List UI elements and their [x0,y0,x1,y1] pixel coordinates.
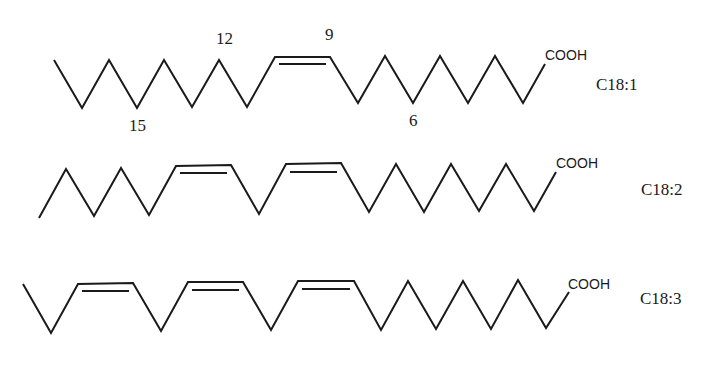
position-label-12: 12 [216,29,233,48]
carboxyl-group: COOH [545,47,587,63]
fatty-acid-diagram: 12 9 15 6 COOH C18:1 COOH C18:2 COOH C18… [0,0,719,379]
position-label-9: 9 [325,25,334,44]
position-label-15: 15 [129,116,146,135]
molecule-c18-3: COOH C18:3 [23,276,682,333]
molecule-c18-2: COOH C18:2 [39,155,683,218]
carboxyl-group: COOH [556,155,598,171]
molecule-label: C18:2 [641,180,683,199]
molecule-c18-1: 12 9 15 6 COOH C18:1 [54,25,638,135]
molecule-label: C18:1 [596,75,638,94]
molecule-label: C18:3 [640,289,682,308]
carboxyl-group: COOH [568,276,610,292]
carbon-chain [23,280,569,333]
position-label-6: 6 [409,111,418,130]
